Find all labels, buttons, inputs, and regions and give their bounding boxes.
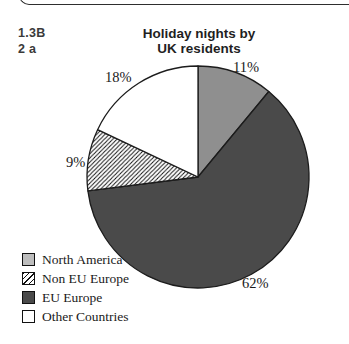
legend-swatch-north-america: [22, 253, 35, 266]
slice-label-non-eu-europe: 9%: [66, 154, 85, 171]
legend-swatch-other-countries: [22, 310, 35, 323]
legend-item-other-countries: Other Countries: [22, 307, 129, 326]
legend-label-other-countries: Other Countries: [42, 309, 129, 325]
legend-label-eu-europe: EU Europe: [42, 290, 102, 306]
legend-item-non-eu-europe: Non EU Europe: [22, 269, 129, 288]
legend: North America Non EU Europe EU Europe Ot…: [22, 250, 129, 326]
legend-item-north-america: North America: [22, 250, 129, 269]
legend-label-non-eu-europe: Non EU Europe: [42, 271, 129, 287]
slice-label-eu-europe: 62%: [242, 275, 269, 292]
legend-swatch-non-eu-europe: [22, 272, 35, 285]
slice-label-other-countries: 18%: [105, 69, 132, 86]
legend-item-eu-europe: EU Europe: [22, 288, 129, 307]
slice-label-north-america: 11%: [233, 59, 259, 76]
legend-label-north-america: North America: [42, 252, 123, 268]
legend-swatch-eu-europe: [22, 291, 35, 304]
